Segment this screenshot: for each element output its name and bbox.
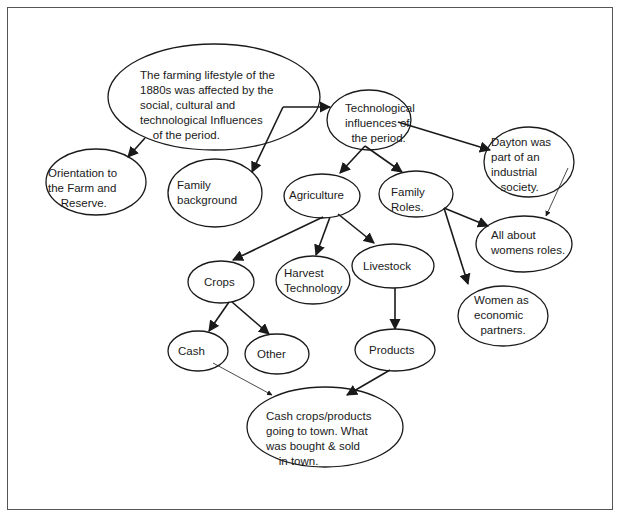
node-crops-label: Crops — [204, 275, 235, 290]
node-womens-roles-label: All about womens roles. — [491, 228, 565, 258]
edge-crops-to-other — [232, 302, 269, 334]
edge-products-to-town — [347, 370, 390, 395]
edge-family-roles-to-women-partners — [444, 208, 468, 284]
edge-agriculture-to-livestock — [338, 214, 374, 243]
edge-agriculture-to-harvest — [316, 217, 330, 255]
edge-crops-to-cash — [209, 302, 229, 331]
edge-family-roles-to-womens-roles — [444, 208, 488, 226]
node-orientation-label: Orientation to the Farm and Reserve. — [48, 166, 117, 211]
node-root-label: The farming lifestyle of the 1880s was a… — [140, 68, 275, 143]
edge-cash-to-town — [213, 363, 272, 395]
node-family-roles-label: Family Roles. — [391, 185, 425, 215]
edge-agriculture-to-crops — [233, 217, 323, 260]
node-cash-label: Cash — [178, 344, 205, 359]
node-town-label: Cash crops/products going to town. What … — [266, 409, 371, 469]
node-family-background-label: Family background — [177, 178, 237, 208]
node-women-partners-label: Women as economic partners. — [474, 293, 529, 338]
node-harvest-label: Harvest Technology — [284, 266, 342, 296]
node-agriculture-label: Agriculture — [289, 188, 344, 203]
node-tech-label: Technological influences of the period. — [345, 101, 415, 146]
node-livestock-label: Livestock — [363, 259, 411, 274]
node-dayton-label: Dayton was part of an industrial society… — [491, 135, 551, 195]
node-products-label: Products — [369, 343, 414, 358]
node-other-label: Other — [257, 347, 286, 362]
